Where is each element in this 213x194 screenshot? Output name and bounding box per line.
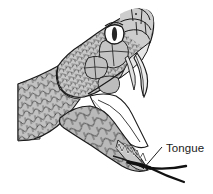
- eye-pupil: [112, 27, 117, 41]
- tongue-label: Tongue: [166, 142, 204, 154]
- snake-illustration: Tongue: [0, 0, 213, 194]
- snake-diagram: Tongue: [0, 0, 213, 194]
